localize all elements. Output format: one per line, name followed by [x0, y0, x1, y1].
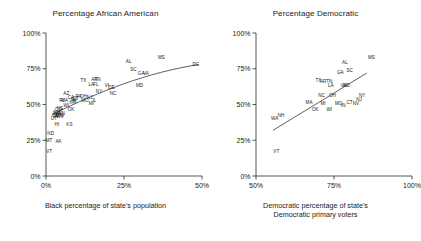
x-tick-label: 0% — [41, 182, 51, 189]
data-point-label: AK — [55, 139, 62, 144]
data-point-label: HI — [55, 122, 60, 127]
data-point-label: NH — [278, 113, 285, 118]
x-tick-label: 50% — [195, 182, 209, 189]
data-point-label: MI — [89, 101, 94, 106]
x-axis-title-left: Black percentage of state's population — [0, 201, 211, 210]
panel-percentage-african-american: Percentage African American 0%25%50%75%1… — [0, 0, 211, 241]
data-point-label: NY — [96, 89, 102, 94]
data-point-label: TX — [81, 78, 87, 83]
x-axis-title-right: Democratic percentage of state's Democra… — [210, 201, 421, 219]
data-point-label: DC — [192, 62, 199, 67]
data-point-label: FL — [93, 82, 99, 87]
data-point-label: LA — [328, 83, 335, 88]
data-point-label: VT — [46, 149, 52, 154]
x-tick-label: 50% — [249, 182, 263, 189]
data-point-label: MS — [368, 55, 375, 60]
data-point-label: IN — [341, 103, 346, 108]
data-point-label: OH — [329, 93, 336, 98]
data-point-label: NV — [353, 101, 360, 106]
data-point-label: WI — [327, 107, 333, 112]
data-point-label: VI — [105, 83, 109, 88]
data-point-label: MD — [136, 83, 144, 88]
data-point-label: TX — [315, 78, 321, 83]
y-tick-label: 0% — [30, 173, 40, 180]
data-point-label: MT — [46, 138, 53, 143]
two-panel-scatter-figure: Percentage African American 0%25%50%75%1… — [0, 0, 421, 241]
y-tick-label: 75% — [26, 65, 40, 72]
y-tick-label: 25% — [236, 137, 250, 144]
y-tick-label: 50% — [26, 101, 40, 108]
data-point-label: UT — [51, 116, 57, 121]
data-point-label: DE — [108, 85, 114, 90]
data-point-label: MS — [158, 55, 165, 60]
data-point-label: WV — [56, 114, 64, 119]
y-tick-label: 50% — [236, 101, 250, 108]
data-point-label: SC — [346, 68, 353, 73]
x-tick-label: 25% — [117, 182, 131, 189]
panel-percentage-democratic: Percentage Democratic 0%25%50%75%100%50%… — [210, 0, 421, 241]
data-point-label: KY — [69, 100, 75, 105]
data-point-label: VT — [273, 149, 279, 154]
data-point-label: MA — [306, 100, 314, 105]
x-axis-title-right-line1: Democratic percentage of state's — [210, 201, 421, 210]
data-point-label: MD — [343, 83, 351, 88]
data-point-label: SC — [130, 67, 137, 72]
data-point-label: MI — [321, 101, 326, 106]
data-point-label: KS — [66, 122, 72, 127]
data-point-label: AL — [342, 60, 348, 65]
data-point-label: OK — [68, 107, 76, 112]
x-axis-title-right-line2: Democratic primary voters — [210, 210, 421, 219]
data-point-label: ND — [47, 131, 54, 136]
y-tick-label: 75% — [236, 65, 250, 72]
y-tick-label: 0% — [240, 173, 250, 180]
data-point-label: NC — [110, 91, 117, 96]
data-point-label: AL — [126, 59, 132, 64]
x-axis-title-left-line1: Black percentage of state's population — [0, 201, 211, 210]
x-tick-label: 100% — [403, 182, 421, 189]
data-point-label: OK — [312, 107, 320, 112]
x-tick-label: 75% — [327, 182, 341, 189]
y-tick-label: 100% — [23, 30, 41, 37]
data-point-label: VA — [143, 71, 150, 76]
data-point-label: GA — [337, 70, 345, 75]
y-tick-label: 25% — [26, 137, 40, 144]
data-point-label: NC — [318, 93, 325, 98]
y-tick-label: 100% — [233, 30, 251, 37]
